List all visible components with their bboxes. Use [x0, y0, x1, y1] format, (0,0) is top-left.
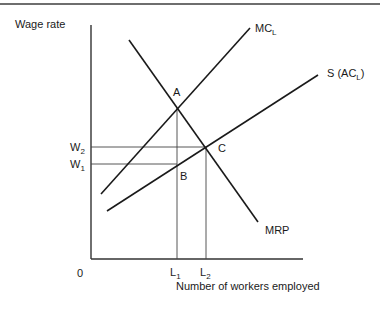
point-b-label: B: [180, 170, 187, 182]
mcl-curve: [101, 28, 250, 194]
point-c-label: C: [218, 142, 226, 154]
mrp-label: MRP: [265, 224, 289, 236]
x-axis-label: Number of workers employed: [176, 280, 320, 292]
mrp-curve: [129, 40, 258, 222]
monopsony-diagram: Wage rate Number of workers employed 0 M…: [0, 0, 380, 309]
w2-label: W2: [70, 141, 85, 156]
point-a-label: A: [173, 86, 181, 98]
supply-curve: [107, 75, 318, 211]
y-axis-label: Wage rate: [15, 18, 65, 30]
origin-label: 0: [77, 267, 83, 279]
w1-label: W1: [70, 158, 85, 173]
mcl-label: MCL: [255, 22, 277, 37]
l2-label: L2: [200, 266, 211, 281]
supply-label: S (ACL): [327, 67, 364, 82]
l1-label: L1: [170, 266, 181, 281]
